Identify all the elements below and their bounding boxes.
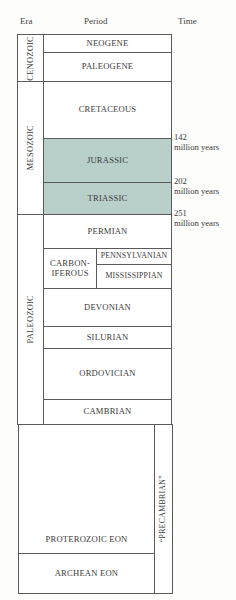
period-carboniferous: CARBON- IFEROUS [43, 248, 97, 289]
period-header: Period [84, 16, 108, 26]
era-paleozoic: PALEOZOIC [17, 214, 44, 425]
era-paleozoic-label: PALEOZOIC [26, 295, 36, 343]
period-jurassic: JURASSIC [43, 138, 172, 183]
time-marker-251: 251 million years [174, 208, 219, 229]
period-cambrian: CAMBRIAN [43, 399, 172, 425]
precambrian-label: “PRECAMBRIAN” [159, 475, 168, 542]
era-mesozoic: MESOZOIC [17, 81, 44, 215]
eon-proterozoic-label: PROTEROZOIC EON [45, 535, 127, 545]
precambrian-column: “PRECAMBRIAN” [154, 424, 173, 594]
subperiod-mississippian: MISSISSIPPIAN [96, 264, 172, 289]
era-cenozoic: CENOZOIC [17, 34, 44, 82]
carboniferous-label-2: IFEROUS [51, 269, 88, 279]
era-header: Era [20, 16, 33, 26]
eon-archean: ARCHEAN EON [18, 553, 155, 594]
period-permian: PERMIAN [43, 214, 172, 249]
period-paleogene: PALEOGENE [43, 52, 172, 82]
time-header: Time [178, 16, 197, 26]
period-neogene: NEOGENE [43, 34, 172, 53]
era-mesozoic-label: MESOZOIC [26, 125, 36, 170]
subperiod-pennsylvanian: PENNSYLVANIAN [96, 248, 172, 265]
period-ordovician: ORDOVICIAN [43, 348, 172, 400]
period-silurian: SILURIAN [43, 326, 172, 349]
time-marker-202: 202 million years [174, 176, 219, 197]
era-cenozoic-label: CENOZOIC [26, 36, 36, 81]
period-cretaceous: CRETACEOUS [43, 81, 172, 139]
time-marker-142: 142 million years [174, 132, 219, 153]
period-triassic: TRIASSIC [43, 182, 172, 215]
period-devonian: DEVONIAN [43, 288, 172, 327]
eon-proterozoic: PROTEROZOIC EON [18, 424, 155, 554]
